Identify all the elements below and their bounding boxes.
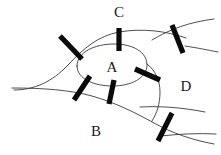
bottom-right-trailing-curve <box>160 134 216 136</box>
upper-left-sweep-curve <box>14 30 186 90</box>
bar-lower-right <box>158 113 172 141</box>
region-d-lower-curve <box>140 107 205 112</box>
region-label-b: B <box>91 124 101 139</box>
bar-lower-left <box>74 76 90 100</box>
figure-canvas: ABCD <box>0 0 221 155</box>
bar-bottom-a <box>109 80 114 104</box>
bar-upper-right <box>172 25 183 53</box>
region-label-a: A <box>107 60 118 75</box>
region-label-c: C <box>114 5 124 20</box>
bar-layer <box>60 25 183 141</box>
region-label-d: D <box>181 79 192 94</box>
bar-upper-left <box>60 36 82 59</box>
right-mid-curve <box>185 46 218 52</box>
